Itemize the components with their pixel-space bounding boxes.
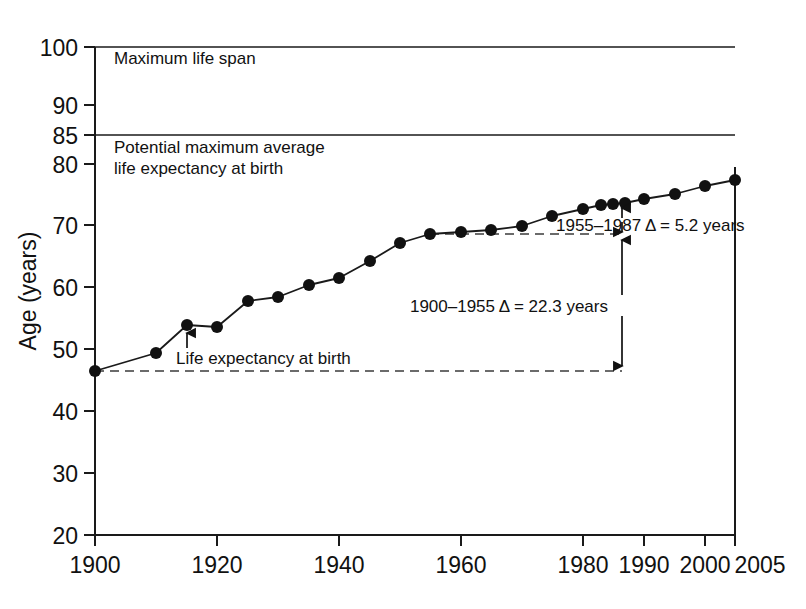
data-point xyxy=(242,295,254,307)
x-tick-labels: 1900 1920 1940 1960 1980 1990 2000 2005 xyxy=(69,552,785,578)
data-point xyxy=(669,188,681,200)
data-point xyxy=(272,291,284,303)
y-tick-labels: 100 90 85 80 70 60 50 40 30 20 xyxy=(40,35,78,549)
data-point xyxy=(211,321,223,333)
y-tick-label-80: 80 xyxy=(52,152,78,178)
y-tick-label-70: 70 xyxy=(52,213,78,239)
series-polyline-life-expectancy xyxy=(95,180,735,371)
annotation-delta-1900-1955: 1900–1955 Δ = 22.3 years xyxy=(410,240,622,366)
y-tick-label-100: 100 xyxy=(40,35,78,61)
x-tick-label-1980: 1980 xyxy=(557,552,608,578)
data-point xyxy=(150,347,162,359)
data-point xyxy=(729,174,741,186)
y-tick-label-90: 90 xyxy=(52,93,78,119)
data-point xyxy=(638,193,650,205)
annotation-series-callout: Life expectancy at birth xyxy=(176,333,351,368)
x-tick-label-2000: 2000 xyxy=(679,552,730,578)
data-point xyxy=(699,180,711,192)
chart-page: 100 90 85 80 70 60 50 40 30 20 Age (year… xyxy=(0,0,806,609)
band-label-maximum-life-span: Maximum life span xyxy=(114,49,256,68)
x-tick-marks xyxy=(95,535,735,546)
life-expectancy-line-chart: 100 90 85 80 70 60 50 40 30 20 Age (year… xyxy=(0,0,806,609)
x-tick-label-1920: 1920 xyxy=(191,552,242,578)
band-label-potential-maximum-line2: life expectancy at birth xyxy=(114,159,283,178)
delta-upper-text: 1955–1987 Δ = 5.2 years xyxy=(556,216,745,235)
data-point xyxy=(333,272,345,284)
data-point xyxy=(577,203,589,215)
callout-text-life-expectancy: Life expectancy at birth xyxy=(176,349,351,368)
band-label-potential-maximum-line1: Potential maximum average xyxy=(114,138,325,157)
y-tick-label-40: 40 xyxy=(52,399,78,425)
data-point xyxy=(181,319,193,331)
data-point xyxy=(595,199,607,211)
data-point xyxy=(619,197,631,209)
data-point xyxy=(516,220,528,232)
y-tick-label-50: 50 xyxy=(52,337,78,363)
data-point xyxy=(455,226,467,238)
data-point xyxy=(394,237,406,249)
y-tick-label-60: 60 xyxy=(52,275,78,301)
data-point xyxy=(607,198,619,210)
x-tick-label-2005: 2005 xyxy=(734,552,785,578)
data-point xyxy=(303,279,315,291)
x-tick-label-1990: 1990 xyxy=(618,552,669,578)
data-point xyxy=(364,255,376,267)
data-point xyxy=(424,228,436,240)
data-point xyxy=(89,365,101,377)
y-tick-label-85: 85 xyxy=(52,123,78,149)
x-tick-label-1940: 1940 xyxy=(313,552,364,578)
x-tick-label-1960: 1960 xyxy=(435,552,486,578)
y-tick-marks xyxy=(84,47,95,535)
y-tick-label-30: 30 xyxy=(52,461,78,487)
x-tick-label-1900: 1900 xyxy=(69,552,120,578)
delta-lower-text: 1900–1955 Δ = 22.3 years xyxy=(410,297,608,316)
y-tick-label-20: 20 xyxy=(52,523,78,549)
y-axis-title: Age (years) xyxy=(15,232,41,351)
axes xyxy=(95,47,735,535)
data-point xyxy=(485,224,497,236)
